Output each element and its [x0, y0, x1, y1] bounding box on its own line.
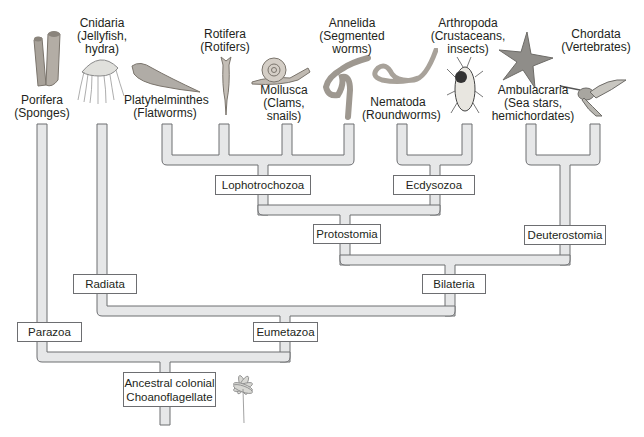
taxon-label-porifera: Porifera (Sponges)	[14, 94, 70, 120]
taxon-common-name: (Sponges)	[14, 107, 70, 120]
taxon-label-platyhelminthes: Platyhelminthes (Flatworms)	[124, 94, 206, 120]
root-label-line2: Choanoflagellate	[124, 390, 215, 404]
taxon-common-name: snails)	[258, 110, 310, 123]
beetle-illustration	[445, 55, 485, 117]
choanoflagellate-colony-illustration	[218, 365, 268, 425]
clade-box-bilateria: Bilateria	[422, 274, 486, 294]
taxon-label-arthropoda: Arthropoda (Crustaceans, insects)	[428, 17, 508, 56]
taxon-label-ambulacraria: Ambulacraria (Sea stars, hemichordates)	[490, 84, 576, 123]
taxon-label-cnidaria: Cnidaria (Jellyfish, hydra)	[74, 17, 130, 56]
clade-label: Bilateria	[423, 277, 485, 291]
clade-label: Lophotrochozoa	[216, 178, 310, 192]
phylogenetic-tree-diagram: Porifera (Sponges) Cnidaria (Jellyfish, …	[0, 0, 644, 437]
taxon-common-name: (Roundworms)	[362, 109, 434, 122]
taxon-label-nematoda: Nematoda (Roundworms)	[362, 96, 434, 122]
root-box-ancestral-choanoflagellate: Ancestral colonial Choanoflagellate	[123, 372, 216, 407]
snail-illustration	[250, 56, 320, 86]
clade-box-protostomia: Protostomia	[313, 224, 381, 244]
clade-box-lophotrochozoa: Lophotrochozoa	[215, 175, 311, 195]
taxon-common-name: hemichordates)	[490, 110, 576, 123]
taxon-label-chordata: Chordata (Vertebrates)	[560, 28, 632, 54]
clade-box-ecdysozoa: Ecdysozoa	[393, 175, 475, 195]
taxon-label-annelida: Annelida (Segmented worms)	[316, 17, 388, 56]
taxon-label-mollusca: Mollusca (Clams, snails)	[258, 84, 310, 123]
clade-box-parazoa: Parazoa	[17, 322, 82, 342]
branch-ecdysozoa	[397, 124, 472, 215]
root-label-line1: Ancestral colonial	[124, 376, 215, 390]
taxon-label-rotifera: Rotifera (Rotifers)	[198, 28, 252, 54]
taxon-common-name: insects)	[428, 43, 508, 56]
clade-label: Protostomia	[314, 227, 380, 241]
taxon-common-name: hydra)	[74, 43, 130, 56]
clade-label: Deuterostomia	[525, 228, 605, 242]
taxon-common-name: worms)	[316, 43, 388, 56]
clade-box-radiata: Radiata	[73, 274, 137, 294]
rotifer-illustration	[218, 55, 234, 117]
clade-label: Ecdysozoa	[394, 178, 474, 192]
taxon-common-name: (Vertebrates)	[560, 41, 632, 54]
clade-box-deuterostomia: Deuterostomia	[524, 225, 606, 245]
clade-label: Eumetazoa	[254, 325, 317, 339]
clade-label: Parazoa	[18, 325, 81, 339]
clade-label: Radiata	[74, 277, 136, 291]
taxon-common-name: (Flatworms)	[124, 107, 206, 120]
taxon-common-name: (Rotifers)	[198, 41, 252, 54]
jellyfish-illustration	[72, 50, 132, 105]
clade-box-eumetazoa: Eumetazoa	[253, 322, 318, 342]
sponge-illustration	[28, 30, 73, 90]
branch-lophotrochozoa	[162, 124, 354, 215]
